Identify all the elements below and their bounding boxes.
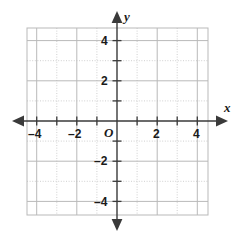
x-tick-label-minus4: –4	[28, 128, 41, 140]
x-tick-label-minus2: –2	[68, 128, 81, 140]
x-axis-arrow-left	[12, 116, 24, 127]
x-tick-label-4: 4	[193, 128, 200, 140]
y-tick-label-minus2: –2	[94, 155, 107, 167]
origin-label: O	[104, 126, 113, 139]
y-tick-label-4: 4	[101, 35, 108, 47]
y-tick-label-minus4: –4	[94, 196, 107, 208]
coordinate-plane-figure: –4 –2 2 4 4 2 –2 –4 O x y	[0, 0, 237, 242]
y-axis-arrow-up	[112, 11, 123, 23]
y-tick-label-2: 2	[101, 75, 108, 87]
x-tick-label-2: 2	[153, 128, 160, 140]
y-axis-arrow-down	[112, 219, 123, 231]
x-axis-arrow-right	[216, 116, 228, 127]
coordinate-grid-svg	[0, 0, 237, 242]
x-axis-label: x	[224, 101, 231, 114]
y-axis-label: y	[124, 10, 130, 23]
